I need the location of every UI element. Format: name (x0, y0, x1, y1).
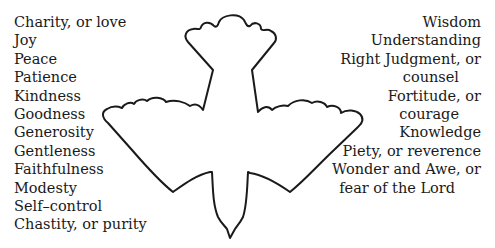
gift-item: Fortitude, or (332, 87, 481, 105)
fruit-item: Kindness (14, 87, 147, 105)
fruit-item: Goodness (14, 105, 147, 123)
gift-item: Piety, or reverence (332, 142, 481, 160)
gift-item-continuation: counsel (332, 68, 481, 86)
fruit-item: Chastity, or purity (14, 215, 147, 233)
fruit-item: Self–control (14, 197, 147, 215)
gift-item: Wisdom (332, 13, 481, 31)
fruit-item: Generosity (14, 123, 147, 141)
fruit-item: Charity, or love (14, 13, 147, 31)
fruit-item: Modesty (14, 179, 147, 197)
gift-item: Understanding (332, 31, 481, 49)
fruit-item: Gentleness (14, 142, 147, 160)
gift-item-continuation: courage (332, 105, 481, 123)
fruit-item: Faithfulness (14, 160, 147, 178)
fruit-item: Patience (14, 68, 147, 86)
gift-item-continuation: fear of the Lord (332, 179, 481, 197)
gifts-of-the-spirit-list: Wisdom Understanding Right Judgment, or … (332, 13, 481, 197)
gift-item: Right Judgment, or (332, 50, 481, 68)
gift-item: Wonder and Awe, or (332, 160, 481, 178)
fruits-of-the-spirit-list: Charity, or love Joy Peace Patience Kind… (14, 13, 147, 234)
fruit-item: Joy (14, 31, 147, 49)
gift-item: Knowledge (332, 123, 481, 141)
fruit-item: Peace (14, 50, 147, 68)
